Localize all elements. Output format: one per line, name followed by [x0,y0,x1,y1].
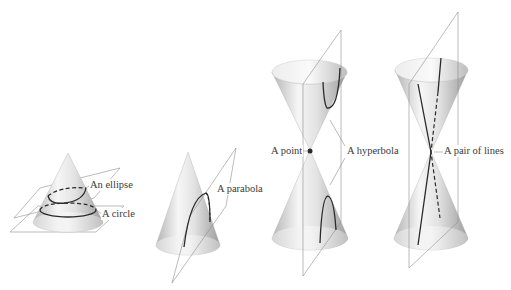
label-pair-of-lines: A pair of lines [443,145,505,157]
label-parabola: A parabola [216,183,264,195]
lower-base [394,226,468,250]
leader-hyperbola-upper [330,120,345,146]
upper-rim [395,58,468,82]
conic-sections-figure [0,0,511,290]
panel-parabola [156,148,236,283]
cone-base [33,212,103,232]
label-hyperbola: A hyperbola [346,145,400,157]
panel-pair-of-lines [394,12,468,268]
leader-hyperbola-lower [330,158,345,185]
vertex-point [308,149,313,154]
upper-rim [272,60,347,84]
label-circle: A circle [101,208,136,220]
label-ellipse: An ellipse [89,179,134,191]
panel-ellipse-circle [10,153,124,232]
label-point: A point [270,145,303,157]
cone-base [156,235,220,255]
upper-nappe [395,70,468,152]
